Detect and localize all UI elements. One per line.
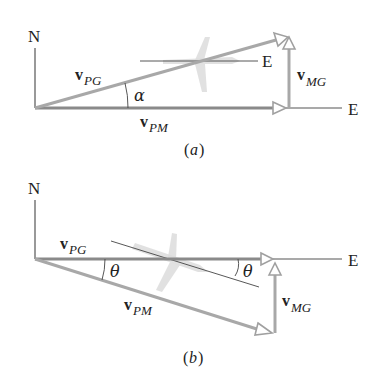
angle-theta-left-arc bbox=[102, 259, 105, 280]
angle-theta-right-arc bbox=[235, 259, 239, 276]
north-label: N bbox=[28, 27, 40, 46]
angle-alpha-label: α bbox=[134, 86, 145, 105]
airplane-icon bbox=[132, 233, 208, 292]
svg-text:(: ( bbox=[184, 141, 189, 159]
vector-pm bbox=[35, 259, 260, 330]
svg-text:PM: PM bbox=[148, 120, 169, 135]
svg-text:): ) bbox=[198, 349, 203, 367]
svg-text:a: a bbox=[190, 141, 198, 158]
svg-text:MG: MG bbox=[290, 300, 312, 315]
vector-mg-label: v MG bbox=[282, 292, 312, 315]
vector-pm-label: v PM bbox=[140, 113, 169, 135]
svg-text:PG: PG bbox=[83, 73, 102, 88]
svg-text:v: v bbox=[75, 66, 83, 83]
east-label: E bbox=[348, 251, 358, 270]
angle-theta-left-label: θ bbox=[110, 262, 120, 281]
svg-text:v: v bbox=[60, 235, 68, 252]
vector-pm-arrowhead bbox=[273, 102, 286, 114]
vector-mg-label: v MG bbox=[297, 66, 327, 89]
angle-theta-right-label: θ bbox=[243, 262, 253, 281]
plane-heading-label: E bbox=[262, 52, 272, 71]
vector-pg-label: v PG bbox=[60, 235, 87, 257]
svg-text:v: v bbox=[297, 66, 305, 83]
svg-text:v: v bbox=[282, 292, 290, 309]
svg-text:MG: MG bbox=[305, 74, 327, 89]
diagram-a: E N E α v PG v PM v MG bbox=[28, 27, 358, 159]
vector-diagrams: E N E α v PG v PM v MG bbox=[0, 0, 379, 386]
svg-text:PM: PM bbox=[132, 303, 153, 318]
svg-text:v: v bbox=[140, 113, 148, 130]
plane-heading-line bbox=[111, 241, 259, 287]
svg-text:v: v bbox=[124, 296, 132, 313]
airplane-icon bbox=[163, 37, 240, 92]
svg-text:): ) bbox=[199, 141, 204, 159]
vector-pg-label: v PG bbox=[75, 66, 102, 88]
north-label: N bbox=[28, 179, 40, 198]
vector-pm-arrowhead bbox=[255, 323, 272, 335]
vector-pg-arrowhead bbox=[261, 253, 273, 265]
east-label: E bbox=[348, 100, 358, 119]
svg-text:(: ( bbox=[183, 349, 188, 367]
diagram-b: N E θ θ v PG v PM v MG bbox=[28, 179, 358, 367]
svg-text:PG: PG bbox=[68, 242, 87, 257]
vector-pm-label: v PM bbox=[124, 296, 153, 318]
caption-a: ( a ) bbox=[184, 141, 204, 159]
vector-mg-arrowhead bbox=[269, 263, 281, 275]
caption-b: ( b ) bbox=[183, 349, 203, 367]
angle-alpha-arc bbox=[125, 83, 128, 108]
svg-text:b: b bbox=[189, 349, 197, 366]
vector-pg bbox=[35, 40, 276, 108]
